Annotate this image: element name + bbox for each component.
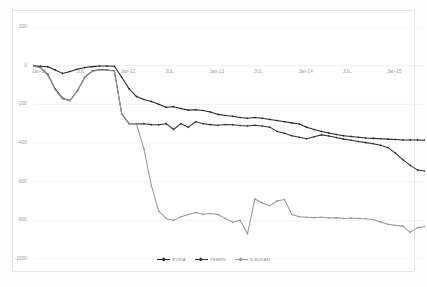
series-marker <box>335 217 337 219</box>
series-marker <box>209 124 211 126</box>
series-marker <box>202 123 204 125</box>
series-line-s-sudan <box>33 66 425 234</box>
series-marker <box>387 138 389 140</box>
legend-item-syria[interactable]: SYRIA <box>157 257 186 262</box>
x-axis-tick-label: Jan-14 <box>298 69 313 74</box>
series-marker <box>343 135 345 137</box>
series-marker <box>232 115 234 117</box>
y-axis-tick-label: 200 <box>3 24 27 29</box>
legend-swatch-icon <box>195 258 208 262</box>
series-marker <box>372 137 374 139</box>
series-marker <box>343 138 345 140</box>
series-marker <box>380 138 382 140</box>
series-marker <box>365 142 367 144</box>
series-marker <box>283 121 285 123</box>
series-marker <box>328 135 330 137</box>
legend-label: SYRIA <box>172 257 186 262</box>
series-marker <box>239 116 241 118</box>
x-axis-tick-label: JUL <box>76 69 84 74</box>
line-chart-svg <box>33 27 425 259</box>
legend-label: YEMEN <box>210 257 226 262</box>
legend-swatch-icon <box>157 258 170 262</box>
legend-item-yemen[interactable]: YEMEN <box>195 257 226 262</box>
series-marker <box>254 116 256 118</box>
x-axis-tick-label: Jan-11 <box>32 69 46 74</box>
series-marker <box>306 138 308 140</box>
series-marker <box>150 124 152 126</box>
series-marker <box>224 114 226 116</box>
chart-container: 2000-200-400-600-800-1000 Jan-11JULJan-1… <box>0 0 427 287</box>
series-marker <box>424 170 425 172</box>
series-marker <box>313 136 315 138</box>
legend-label: S SUDAN <box>250 257 270 262</box>
series-marker <box>320 134 322 136</box>
chart-legend: SYRIAYEMENS SUDAN <box>13 257 414 262</box>
series-marker <box>298 136 300 138</box>
chart-frame: 2000-200-400-600-800-1000 Jan-11JULJan-1… <box>12 10 415 272</box>
series-line-yemen <box>33 66 425 171</box>
series-marker <box>261 125 263 127</box>
y-axis-tick-label: -600 <box>3 179 27 184</box>
x-axis-tick-label: JUL <box>165 69 173 74</box>
series-marker <box>202 109 204 111</box>
series-marker <box>417 139 419 141</box>
series-marker <box>202 213 204 215</box>
series-marker <box>195 212 197 214</box>
series-marker <box>402 139 404 141</box>
series-marker <box>424 139 425 141</box>
x-axis-tick-label: Jan-13 <box>210 69 225 74</box>
series-marker <box>239 125 241 127</box>
y-axis-tick-label: -200 <box>3 101 27 106</box>
series-marker <box>269 118 271 120</box>
series-marker <box>357 140 359 142</box>
series-marker <box>217 124 219 126</box>
x-axis-tick-label: JUL <box>254 69 262 74</box>
series-marker <box>320 216 322 218</box>
legend-item-s-sudan[interactable]: S SUDAN <box>235 257 270 262</box>
series-marker <box>335 137 337 139</box>
legend-swatch-icon <box>235 258 248 262</box>
series-marker <box>246 125 248 127</box>
series-marker <box>343 217 345 219</box>
series-marker <box>224 123 226 125</box>
series-marker <box>254 124 256 126</box>
series-marker <box>172 106 174 108</box>
series-marker <box>357 217 359 219</box>
series-marker <box>350 139 352 141</box>
y-axis-tick-label: 0 <box>3 63 27 68</box>
series-marker <box>320 130 322 132</box>
x-axis-tick-label: Jan-12 <box>121 69 136 74</box>
series-marker <box>350 135 352 137</box>
series-marker <box>394 138 396 140</box>
series-marker <box>209 213 211 215</box>
series-marker <box>365 218 367 220</box>
series-marker <box>306 216 308 218</box>
series-marker <box>424 225 425 227</box>
series-marker <box>394 224 396 226</box>
series-marker <box>276 120 278 122</box>
series-marker <box>357 136 359 138</box>
series-marker <box>291 122 293 124</box>
series-marker <box>232 124 234 126</box>
series-marker <box>350 217 352 219</box>
series-line-syria <box>33 66 425 141</box>
series-marker <box>158 124 160 126</box>
series-marker <box>143 123 145 125</box>
series-marker <box>187 109 189 111</box>
series-marker <box>409 139 411 141</box>
series-marker <box>365 137 367 139</box>
y-axis-tick-label: -400 <box>3 140 27 145</box>
y-axis-tick-label: -800 <box>3 217 27 222</box>
plot-area <box>33 27 425 259</box>
series-marker <box>313 217 315 219</box>
series-marker <box>246 117 248 119</box>
series-marker <box>195 109 197 111</box>
x-axis-tick-label: JUL <box>343 69 351 74</box>
series-marker <box>328 217 330 219</box>
series-marker <box>335 133 337 135</box>
x-axis-tick-label: Jan-15 <box>387 69 402 74</box>
series-marker <box>180 108 182 110</box>
series-marker <box>261 117 263 119</box>
series-marker <box>328 132 330 134</box>
